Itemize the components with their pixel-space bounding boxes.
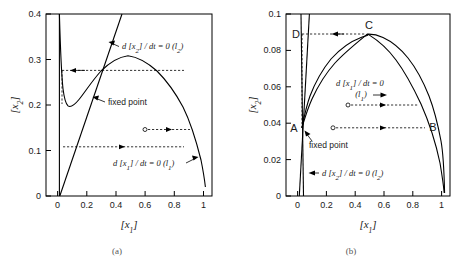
x-tick-label: 0.6 [378,200,391,210]
x-tick-label: 0.4 [110,200,123,210]
x-axis-title-b: [x1] [359,218,376,235]
annotation-nullcline-x1-text-a: d [x1] / dt = 0 (l1) [113,158,175,172]
y-tick-label: 0 [36,191,41,201]
panel-a-caption: (a) [0,246,234,256]
x-axis-ticks-a: 0 0.2 0.4 0.6 0.8 1 [55,191,206,210]
trajectory-mid-b [346,103,418,108]
y-axis-ticks-b: 0 0.02 0.04 0.06 0.08 0.1 [263,9,291,201]
y-tick-label: 0.08 [263,45,281,55]
y-axis-title-b: [x2] [246,96,263,113]
trajectory-d-to-c-b [302,32,365,37]
annotation-nullcline-x2-b: d [x2] / dt = 0 (l2) [309,168,384,182]
x-tick-label: 0.8 [168,200,181,210]
trajectory-start-marker [331,126,335,130]
annotation-nullcline-x1-a: d [x1] / dt = 0 (l1) [113,156,199,173]
annotation-fixed-point-a: fixed point [93,96,148,107]
y-tick-label: 0.4 [28,9,41,19]
point-label-C: C [365,19,373,31]
annotation-nullcline-x1-b: d [x1] / dt = 0 (l1) [336,78,387,103]
y-tick-label: 0.3 [28,55,41,65]
trajectory-lower-a [63,144,184,149]
figure-phase-planes: 0 0.1 0.2 0.3 0.4 0 0.2 0.4 0.6 0.8 1 [0,0,468,262]
annotation-nullcline-x2-text-b: d [x2] / dt = 0 (l2) [322,168,384,182]
panel-a-plot: 0 0.1 0.2 0.3 0.4 0 0.2 0.4 0.6 0.8 1 [0,0,234,246]
x-tick-label: 0.2 [320,200,333,210]
y-tick-label: 0.1 [268,9,281,19]
trajectory-mid-a [143,127,190,132]
panel-b-plot: 0 0.02 0.04 0.06 0.08 0.1 0 0.2 0.4 0.6 … [234,0,468,246]
x-tick-label: 0.2 [81,200,94,210]
trajectory-a-to-b-b [331,125,425,130]
y-tick-label: 0.1 [28,146,41,156]
y-tick-label: 0.2 [28,100,41,110]
panel-a: 0 0.1 0.2 0.3 0.4 0 0.2 0.4 0.6 0.8 1 [0,0,234,262]
trajectory-start-marker [143,128,147,132]
annotation-nullcline-x1-sub-b: (l1) [355,89,367,103]
x-tick-label: 0 [295,200,300,210]
annotation-nullcline-x2-a: d [x2] / dt = 0 (l2) [109,41,184,56]
trajectory-start-marker [346,103,350,107]
point-label-A: A [290,122,298,134]
x-tick-label: 0.4 [349,200,362,210]
y-tick-label: 0 [276,191,281,201]
annotation-nullcline-x2-text-a: d [x2] / dt = 0 (l2) [122,41,184,55]
x-tick-label: 0.8 [407,200,420,210]
x-tick-label: 1 [201,200,206,210]
nullcline-x2-branch-b [301,14,304,196]
panel-b-caption: (b) [234,246,468,256]
nullcline-x2-line-b [299,14,309,196]
annotation-fixed-point-text-a: fixed point [108,97,147,107]
panel-b: 0 0.02 0.04 0.06 0.08 0.1 0 0.2 0.4 0.6 … [234,0,468,262]
y-axis-title-a: [x2] [8,96,25,113]
point-label-B: B [429,121,436,133]
y-tick-label: 0.04 [263,118,281,128]
y-axis-ticks-a: 0 0.1 0.2 0.3 0.4 [28,9,51,201]
x-tick-label: 0.6 [139,200,152,210]
y-tick-label: 0.06 [263,82,281,92]
y-tick-label: 0.02 [263,155,281,165]
x-tick-label: 0 [55,200,60,210]
point-label-D: D [292,28,300,40]
x-axis-ticks-b: 0 0.2 0.4 0.6 0.8 1 [295,191,444,210]
x-tick-label: 1 [439,200,444,210]
x-axis-title-a: [x1] [120,218,137,235]
annotation-fixed-point-b: fixed point [305,131,349,151]
annotation-fixed-point-text-b: fixed point [309,140,348,150]
